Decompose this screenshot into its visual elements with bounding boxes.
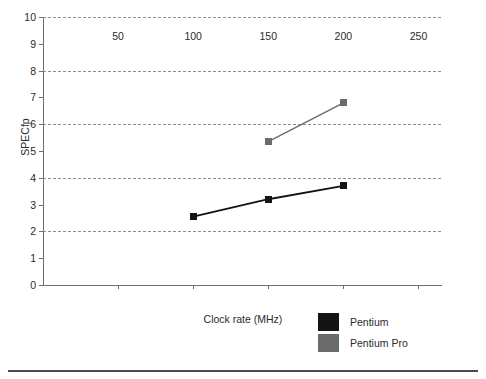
- y-tick-label: 7: [30, 92, 36, 103]
- series-line-pentium-pro: [268, 103, 343, 142]
- x-tick-mark: [343, 285, 344, 289]
- legend-swatch-pentium: [318, 313, 339, 331]
- x-tick-mark: [268, 285, 269, 289]
- legend-item-pentium: Pentium: [318, 311, 408, 332]
- y-tick-label: 1: [30, 253, 36, 264]
- y-tick-label: 3: [30, 199, 36, 210]
- series-lines: [43, 17, 441, 285]
- legend-label-pentium: Pentium: [350, 316, 389, 328]
- y-tick-mark: [39, 285, 43, 286]
- plot-area: 01234567891050100150200250: [43, 17, 441, 285]
- y-axis-title: SPECfp: [19, 118, 31, 155]
- data-point-pentium-pro-150: [265, 138, 272, 145]
- y-tick-label: 8: [30, 65, 36, 76]
- legend-swatch-pentium-pro: [318, 334, 339, 352]
- x-tick-mark: [193, 285, 194, 289]
- data-point-pentium-pro-200: [340, 99, 347, 106]
- y-tick-label: 0: [30, 280, 36, 291]
- bottom-divider-rule: [8, 370, 478, 372]
- x-axis-title: Clock rate (MHz): [0, 313, 486, 325]
- y-tick-label: 10: [24, 12, 36, 23]
- data-point-pentium-200: [340, 182, 347, 189]
- y-tick-label: 5: [30, 146, 36, 157]
- y-tick-label: 9: [30, 39, 36, 50]
- data-point-pentium-100: [190, 213, 197, 220]
- y-tick-label: 6: [30, 119, 36, 130]
- y-tick-label: 2: [30, 226, 36, 237]
- x-tick-mark: [118, 285, 119, 289]
- chart-figure: SPECfp Clock rate (MHz) 0123456789105010…: [0, 0, 486, 379]
- data-point-pentium-150: [265, 196, 272, 203]
- legend-item-pentium-pro: Pentium Pro: [318, 332, 408, 353]
- x-tick-mark: [418, 285, 419, 289]
- x-axis-line: [43, 285, 442, 286]
- chart-legend: Pentium Pentium Pro: [318, 311, 408, 353]
- y-tick-label: 4: [30, 173, 36, 184]
- legend-label-pentium-pro: Pentium Pro: [350, 337, 408, 349]
